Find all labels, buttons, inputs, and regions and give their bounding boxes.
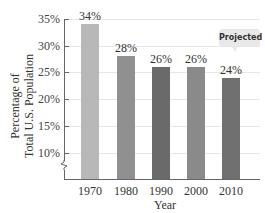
value-label-1980: 28% (106, 42, 146, 54)
bar-1980 (117, 56, 135, 179)
y-tick-10: 10% (28, 147, 60, 159)
x-tick-2000: 2000 (176, 185, 216, 197)
y-tick-35: 35% (28, 13, 60, 25)
projected-callout: Projected (219, 29, 260, 47)
y-axis-line-lower (64, 170, 65, 179)
x-axis-label: Year (135, 199, 195, 211)
value-label-1970: 34% (70, 10, 110, 22)
x-axis-line (64, 179, 260, 180)
y-tick-25: 25% (28, 66, 60, 78)
y-axis-line (64, 19, 65, 161)
bar-1970 (81, 24, 99, 179)
y-tick-30: 30% (28, 40, 60, 52)
x-tick-1990: 1990 (141, 185, 181, 197)
value-label-2010: 24% (211, 64, 251, 76)
x-tick-1970: 1970 (70, 185, 110, 197)
value-label-1990: 26% (141, 53, 181, 65)
bar-2010 (222, 78, 240, 179)
callout-pointer (232, 47, 238, 52)
y-tick-15: 15% (28, 120, 60, 132)
x-tick-1980: 1980 (106, 185, 146, 197)
bar-2000 (187, 67, 205, 179)
axis-break-icon (59, 160, 69, 170)
value-label-2000: 26% (176, 53, 216, 65)
x-tick-2010: 2010 (211, 185, 251, 197)
bar-1990 (152, 67, 170, 179)
y-axis-label-line1: Percentage of (8, 21, 22, 191)
y-tick-20: 20% (28, 93, 60, 105)
